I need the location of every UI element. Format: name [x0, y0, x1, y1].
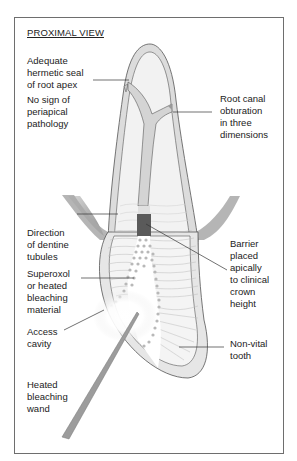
- label-access-cavity: Access cavity: [27, 326, 58, 350]
- label-root-canal-obturation: Root canal obturation in three dimension…: [220, 93, 268, 141]
- label-heated-wand: Heated bleaching wand: [27, 379, 68, 415]
- label-no-periapical-pathology: No sign of periapical pathology: [27, 94, 70, 130]
- label-dentine-tubules: Direction of dentine tubules: [27, 227, 69, 263]
- label-barrier: Barrier placed apically to clinical crow…: [230, 238, 269, 310]
- label-non-vital-tooth: Non-vital tooth: [230, 338, 268, 362]
- gum-tissue-right: [196, 196, 240, 240]
- barrier: [137, 214, 151, 236]
- label-hermetic-seal: Adequate hermetic seal of root apex: [27, 55, 84, 91]
- gum-tissue-left: [62, 195, 108, 240]
- diagram-title: PROXIMAL VIEW: [27, 27, 104, 38]
- label-bleaching-material: Superoxol or heated bleaching material: [27, 268, 70, 316]
